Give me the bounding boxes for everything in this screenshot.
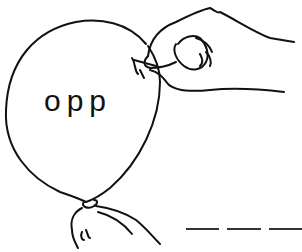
blank-dash-3 [269,228,302,230]
balloon-word: opp [44,84,112,118]
answer-blank[interactable] [186,228,302,231]
blank-dash-2 [227,228,260,230]
hand-top-icon [148,8,294,56]
worksheet-illustration: opp [0,0,302,252]
blank-dash-1 [186,228,219,230]
balloon-drawing [0,0,302,252]
